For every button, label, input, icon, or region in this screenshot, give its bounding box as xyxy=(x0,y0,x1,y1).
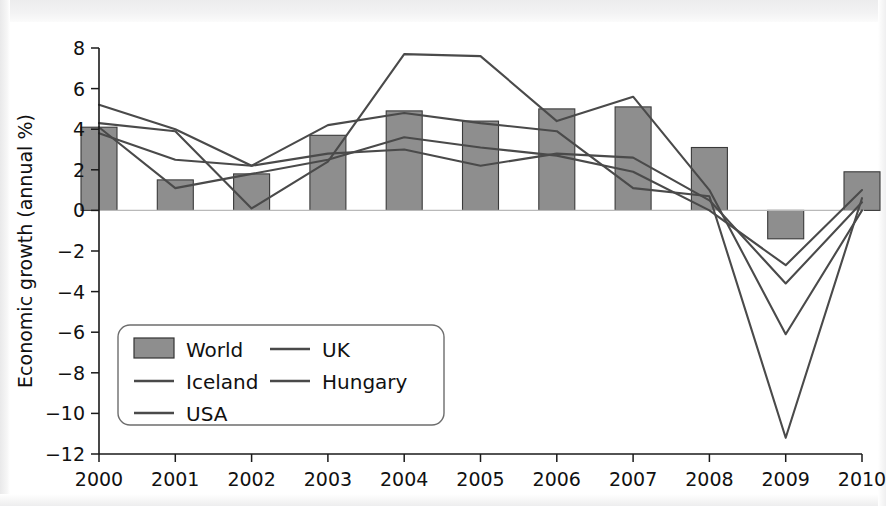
x-tick-label-2005: 2005 xyxy=(456,468,504,490)
legend-swatch-world xyxy=(134,338,174,358)
legend-label-iceland: Iceland xyxy=(186,370,258,394)
legend-label-world: World xyxy=(186,338,243,362)
bar-2001 xyxy=(157,180,193,211)
y-tick-label--12: −12 xyxy=(45,443,85,465)
y-tick-label--10: −10 xyxy=(45,402,85,424)
chart-legend[interactable]: WorldIcelandUSAUKHungary xyxy=(118,325,444,426)
x-tick-label-2004: 2004 xyxy=(380,468,428,490)
y-tick-labels: 86420−2−4−6−8−10−12 xyxy=(45,37,85,465)
x-tick-labels: 2000200120022003200420052006200720082009… xyxy=(75,468,886,490)
bar-2004 xyxy=(386,111,422,210)
x-tick-label-2000: 2000 xyxy=(75,468,123,490)
x-tick-label-2010: 2010 xyxy=(838,468,886,490)
bar-2003 xyxy=(310,135,346,210)
x-tick-label-2003: 2003 xyxy=(304,468,352,490)
x-tick-label-2007: 2007 xyxy=(609,468,657,490)
y-tick-label-0: 0 xyxy=(73,199,85,221)
x-tick-label-2006: 2006 xyxy=(533,468,581,490)
x-tick-label-2001: 2001 xyxy=(151,468,199,490)
figure-page: 86420−2−4−6−8−10−12 20002001200220032004… xyxy=(0,0,886,506)
y-tick-label--6: −6 xyxy=(57,321,85,343)
y-axis-title-text: Economic growth (annual %) xyxy=(14,114,36,388)
bar-2009 xyxy=(768,210,804,238)
legend-label-uk: UK xyxy=(322,338,351,362)
y-tick-label-2: 2 xyxy=(73,159,85,181)
x-tick-label-2002: 2002 xyxy=(227,468,275,490)
y-tick-label--4: −4 xyxy=(57,281,85,303)
y-tick-label--2: −2 xyxy=(57,240,85,262)
y-tick-label--8: −8 xyxy=(57,362,85,384)
bar-2002 xyxy=(234,174,270,211)
bar-series-world xyxy=(81,107,880,239)
y-tick-label-8: 8 xyxy=(73,37,85,59)
bar-2006 xyxy=(539,109,575,210)
economic-growth-chart: 86420−2−4−6−8−10−12 20002001200220032004… xyxy=(0,0,886,506)
y-tick-label-4: 4 xyxy=(73,118,85,140)
legend-label-hungary: Hungary xyxy=(322,370,408,394)
x-tick-label-2008: 2008 xyxy=(685,468,733,490)
y-axis-title: Economic growth (annual %) xyxy=(14,114,36,388)
y-tick-label-6: 6 xyxy=(73,78,85,100)
legend-label-usa: USA xyxy=(186,402,228,426)
x-tick-label-2009: 2009 xyxy=(762,468,810,490)
